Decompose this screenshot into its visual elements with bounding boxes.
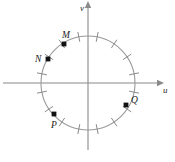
marked-point-p: P — [50, 112, 57, 130]
axes-group — [3, 1, 164, 150]
point-label-p: P — [50, 120, 57, 130]
point-marker-p — [52, 112, 57, 117]
circle-tick-mark — [111, 118, 117, 126]
circle-tick-mark — [59, 118, 65, 126]
marked-point-q: Q — [124, 95, 138, 107]
point-label-q: Q — [131, 95, 138, 105]
circle-tick-mark — [45, 106, 53, 112]
point-marker-m — [62, 42, 67, 47]
circle-tick-mark — [123, 54, 131, 60]
marked-point-m: M — [61, 30, 71, 46]
u-axis-label: u — [163, 85, 168, 95]
vertical-axis-arrowhead — [85, 1, 91, 8]
figure-canvas: MNPQ u v — [0, 0, 175, 162]
point-marker-q — [124, 103, 129, 108]
circle-tick-mark — [111, 40, 117, 48]
point-label-n: N — [34, 54, 42, 64]
point-marker-n — [46, 57, 51, 62]
point-label-m: M — [61, 30, 71, 40]
v-axis-label: v — [80, 3, 84, 13]
marked-point-n: N — [34, 54, 50, 64]
unit-circle-figure: MNPQ u v — [0, 0, 175, 162]
